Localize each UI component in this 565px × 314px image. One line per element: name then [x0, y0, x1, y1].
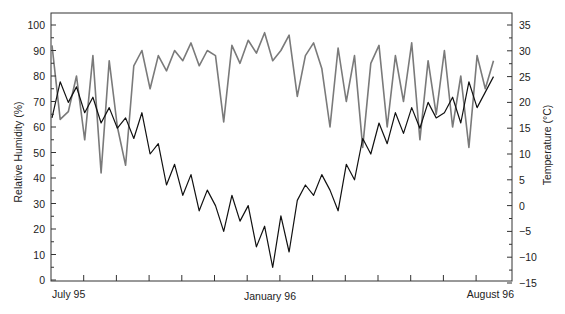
left-tick-label: 70	[33, 96, 45, 108]
left-tick-label: 10	[33, 249, 45, 261]
left-tick-label: 0	[39, 274, 45, 286]
series-layer	[52, 33, 494, 268]
left-axis-ticks: 0102030405060708090100	[27, 19, 56, 286]
x-label-end: August 96	[467, 288, 514, 300]
x-label-start: July 95	[52, 288, 85, 300]
plot-frame	[51, 13, 512, 281]
right-tick-label: 15	[519, 122, 531, 134]
right-tick-label: 5	[519, 174, 525, 186]
left-tick-label: 40	[33, 172, 45, 184]
left-tick-label: 50	[33, 147, 45, 159]
right-tick-label: −10	[519, 251, 537, 263]
x-axis-ticks	[84, 275, 476, 281]
right-tick-label: 20	[519, 96, 531, 108]
left-tick-label: 60	[33, 121, 45, 133]
left-tick-label: 30	[33, 198, 45, 210]
humidity-series-line	[52, 33, 494, 173]
x-label-mid: January 96	[244, 290, 296, 302]
right-tick-label: 30	[519, 45, 531, 57]
left-axis-title: Relative Humidity (%)	[12, 102, 24, 203]
right-tick-label: 35	[519, 19, 531, 31]
left-tick-label: 80	[33, 70, 45, 82]
right-tick-label: 25	[519, 71, 531, 83]
right-tick-label: −15	[519, 277, 537, 289]
right-tick-label: 10	[519, 148, 531, 160]
right-axis-ticks: −15−10−505101520253035	[507, 19, 537, 289]
left-tick-label: 100	[27, 19, 45, 31]
left-tick-label: 90	[33, 45, 45, 57]
dual-axis-line-chart: 0102030405060708090100 −15−10−5051015202…	[0, 0, 565, 314]
left-tick-label: 20	[33, 223, 45, 235]
right-tick-label: −5	[519, 225, 531, 237]
temperature-series-line	[52, 77, 494, 268]
right-tick-label: 0	[519, 200, 525, 212]
right-axis-title: Temperature (°C)	[541, 105, 553, 186]
